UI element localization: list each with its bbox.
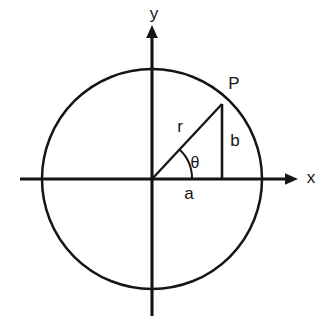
- radius-label: r: [177, 117, 183, 136]
- polar-coordinate-diagram: x y P r θ b a: [0, 0, 323, 321]
- x-axis-arrowhead: [285, 173, 298, 185]
- y-axis-label: y: [150, 4, 159, 23]
- y-axis-arrowhead: [146, 25, 158, 38]
- angle-label: θ: [191, 154, 200, 171]
- diagram-canvas: x y P r θ b a: [0, 0, 323, 321]
- x-axis-label: x: [307, 168, 316, 187]
- radius-segment: [152, 104, 222, 179]
- point-p-label: P: [228, 74, 239, 93]
- opposite-label: b: [230, 131, 239, 150]
- adjacent-label: a: [184, 184, 194, 203]
